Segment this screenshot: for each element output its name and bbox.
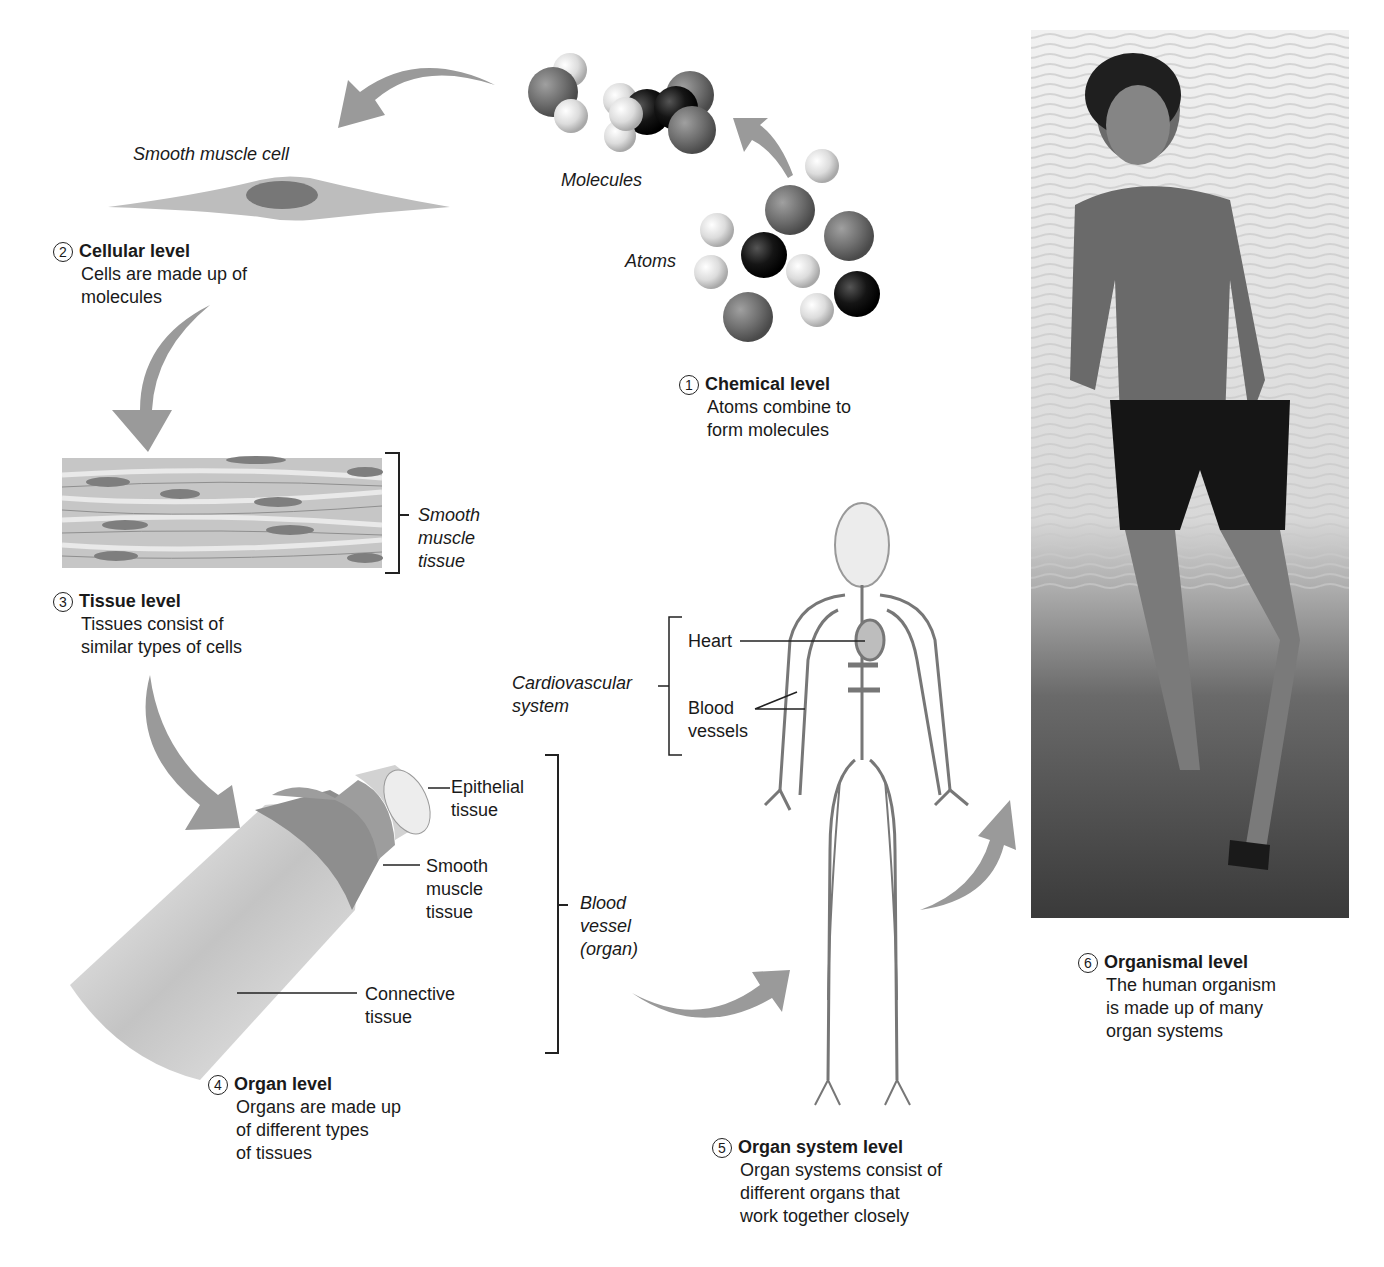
number-badge: 4 bbox=[208, 1075, 228, 1095]
epithelial-tissue-label: Epithelial tissue bbox=[451, 776, 524, 822]
smooth-muscle-tissue-bracket bbox=[385, 453, 409, 573]
arrow-organ-to-system-icon bbox=[632, 970, 790, 1018]
level-title: Tissue level bbox=[79, 590, 181, 613]
level-organ: 4 Organ level Organs are made up of diff… bbox=[208, 1073, 401, 1165]
level-organ-system: 5 Organ system level Organ systems consi… bbox=[712, 1136, 942, 1228]
arrow-tissue-to-organ-icon bbox=[146, 675, 240, 830]
molecules-label: Molecules bbox=[561, 169, 642, 192]
level-description: Tissues consist of similar types of cell… bbox=[53, 613, 242, 659]
arrow-atoms-to-molecules-icon bbox=[733, 118, 793, 178]
level-chemical: 1 Chemical level Atoms combine to form m… bbox=[679, 373, 851, 442]
runner-photo bbox=[1031, 30, 1349, 918]
smooth-muscle-cell-illustration bbox=[108, 176, 450, 220]
smooth-muscle-cell-label: Smooth muscle cell bbox=[133, 143, 289, 166]
cardiovascular-system-label: Cardiovascular system bbox=[512, 672, 632, 718]
level-organismal: 6 Organismal level The human organism is… bbox=[1078, 951, 1276, 1043]
level-title: Organ system level bbox=[738, 1136, 903, 1159]
arrow-molecules-to-cell-icon bbox=[338, 68, 495, 128]
blood-vessel-illustration bbox=[70, 763, 439, 1080]
level-description: Organ systems consist of different organ… bbox=[712, 1159, 942, 1228]
level-title: Organ level bbox=[234, 1073, 332, 1096]
connective-tissue-label: Connective tissue bbox=[365, 983, 455, 1029]
level-title: Cellular level bbox=[79, 240, 190, 263]
level-title: Organismal level bbox=[1104, 951, 1248, 974]
level-description: The human organism is made up of many or… bbox=[1078, 974, 1276, 1043]
level-cellular: 2 Cellular level Cells are made up of mo… bbox=[53, 240, 247, 309]
smooth-muscle-tissue-label: Smooth muscle tissue bbox=[418, 504, 480, 573]
heart-label: Heart bbox=[688, 630, 732, 653]
level-description: Cells are made up of molecules bbox=[53, 263, 247, 309]
blood-vessel-organ-label: Blood vessel (organ) bbox=[580, 892, 638, 961]
blood-vessel-bracket bbox=[545, 755, 568, 1053]
arrow-cell-to-tissue-icon bbox=[112, 305, 210, 452]
level-description: Organs are made up of different types of… bbox=[208, 1096, 401, 1165]
organ-smooth-muscle-tissue-label: Smooth muscle tissue bbox=[426, 855, 488, 924]
number-badge: 5 bbox=[712, 1138, 732, 1158]
level-description: Atoms combine to form molecules bbox=[679, 396, 851, 442]
number-badge: 2 bbox=[53, 242, 73, 262]
number-badge: 1 bbox=[679, 375, 699, 395]
number-badge: 6 bbox=[1078, 953, 1098, 973]
cardiovascular-system-illustration bbox=[765, 503, 968, 1105]
atoms-illustration bbox=[694, 149, 880, 342]
blood-vessels-label: Blood vessels bbox=[688, 697, 748, 743]
level-tissue: 3 Tissue level Tissues consist of simila… bbox=[53, 590, 242, 659]
arrow-system-to-organism-icon bbox=[920, 800, 1016, 910]
number-badge: 3 bbox=[53, 592, 73, 612]
smooth-muscle-tissue-illustration bbox=[62, 456, 383, 568]
molecules-illustration bbox=[528, 53, 716, 154]
level-title: Chemical level bbox=[705, 373, 830, 396]
atoms-label: Atoms bbox=[625, 250, 676, 273]
